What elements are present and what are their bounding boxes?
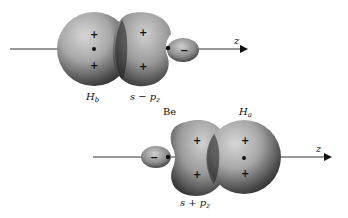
- top-panel: z + + + + − Hb s − pz: [10, 12, 248, 104]
- hybrid-bottom-sign-lower: +: [193, 169, 201, 180]
- hb-sign-upper: +: [90, 29, 98, 40]
- bottom-axis-label: z: [315, 143, 322, 154]
- hybrid-bottom-sign-upper: +: [193, 135, 201, 146]
- ha-sign-lower: +: [241, 168, 249, 179]
- top-nucleus-dot: [166, 46, 170, 50]
- be-label: Be: [163, 106, 176, 117]
- top-axis-arrowhead-icon: [240, 45, 248, 53]
- orbital-diagram: z + + + + − Hb s − pz z + + + +: [0, 0, 348, 218]
- s-minus-pz-label: s − pz: [130, 91, 160, 104]
- bottom-axis-arrowhead-icon: [324, 153, 332, 161]
- top-small-lobe-sign: −: [180, 45, 188, 56]
- hb-label: Hb: [85, 91, 100, 104]
- hb-nucleus-dot: [92, 47, 96, 51]
- bottom-small-lobe-sign: −: [150, 152, 158, 163]
- hb-sign-lower: +: [90, 60, 98, 71]
- ha-nucleus-dot: [242, 156, 246, 160]
- s-plus-pz-label: s + pz: [180, 197, 210, 210]
- hybrid-top-sign-lower: +: [139, 61, 147, 72]
- top-axis-label: z: [233, 35, 240, 46]
- ha-label: Ha: [238, 106, 252, 119]
- be-nucleus-dot: [166, 155, 170, 159]
- ha-sign-upper: +: [241, 135, 249, 146]
- hybrid-top-sign-upper: +: [139, 27, 147, 38]
- bottom-panel: z + + + + − Be Ha s + pz: [93, 106, 332, 210]
